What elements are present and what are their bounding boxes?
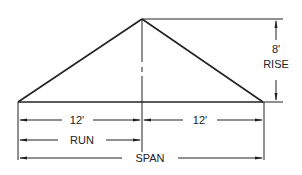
rise-value-label: 8' bbox=[272, 43, 280, 55]
left-run-value: 12' bbox=[70, 114, 84, 126]
roof-outline bbox=[18, 19, 263, 102]
run-label: RUN bbox=[70, 134, 94, 146]
right-run-value: 12' bbox=[193, 114, 207, 126]
span-label: SPAN bbox=[135, 152, 164, 164]
roof-diagram: 8' RISE 12' 12' RUN SPAN bbox=[0, 0, 302, 175]
rise-label: RISE bbox=[263, 58, 289, 70]
